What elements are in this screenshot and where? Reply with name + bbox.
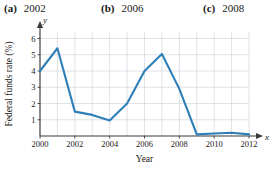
answer-choice-b[interactable]: (b)2006 xyxy=(101,2,143,14)
vertical-gridlines xyxy=(40,32,249,136)
y-tick-label: 6 xyxy=(31,34,35,44)
federal-funds-rate-chart: 123456 2000200220042006200820102012 y x … xyxy=(0,18,274,179)
y-tick-label: 3 xyxy=(31,82,35,92)
y-axis-title: Federal funds rate (%) xyxy=(4,41,15,126)
answer-choice-a-tag: (a) xyxy=(4,2,17,14)
answer-choice-c[interactable]: (c)2008 xyxy=(203,2,244,14)
y-tick-label: 4 xyxy=(31,66,36,76)
x-tick-label: 2010 xyxy=(206,139,223,149)
answer-choices: (a)2002 (b)2006 (c)2008 xyxy=(0,0,274,20)
x-tick-label: 2004 xyxy=(101,139,119,149)
answer-choice-c-value: 2008 xyxy=(222,2,244,14)
answer-choice-a[interactable]: (a)2002 xyxy=(4,2,46,14)
x-tick-label: 2000 xyxy=(32,139,49,149)
x-axis-title: Year xyxy=(136,154,154,164)
y-tick-label: 2 xyxy=(31,99,35,109)
y-tick-label: 5 xyxy=(31,50,35,60)
y-tick-labels: 123456 xyxy=(31,34,36,125)
y-axis-variable-label: y xyxy=(42,18,47,25)
x-axis-variable-label: x xyxy=(264,132,269,142)
answer-choice-c-tag: (c) xyxy=(203,2,215,14)
answer-choice-b-value: 2006 xyxy=(121,2,143,14)
answer-choice-b-tag: (b) xyxy=(101,2,114,14)
x-tick-label: 2002 xyxy=(66,139,83,149)
x-tick-label: 2012 xyxy=(241,139,258,149)
x-tick-label: 2008 xyxy=(171,139,188,149)
x-tick-labels: 2000200220042006200820102012 xyxy=(32,139,258,149)
x-tick-label: 2006 xyxy=(136,139,153,149)
answer-choice-a-value: 2002 xyxy=(24,2,46,14)
y-tick-label: 1 xyxy=(31,115,35,125)
line-chart-figure: 123456 2000200220042006200820102012 y x … xyxy=(0,18,274,179)
